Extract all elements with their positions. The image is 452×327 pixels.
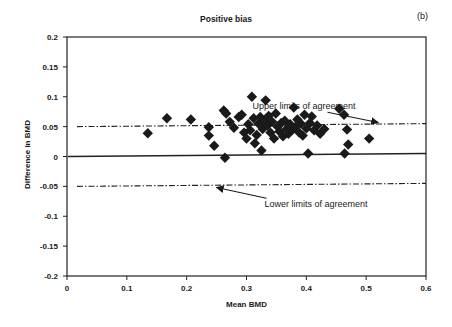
data-point xyxy=(220,152,230,162)
x-tick-label: 0.1 xyxy=(121,284,133,293)
scatter-plot: 0.20.150.10.050-0.05-0.1-0.15-0.2 00.10.… xyxy=(0,0,452,327)
x-tick-label: 0.2 xyxy=(181,284,193,293)
mean-difference-line xyxy=(68,154,426,157)
annotation-arrow xyxy=(217,188,267,199)
data-point xyxy=(339,148,349,158)
upper-limit-annotation: Upper limits of agreement xyxy=(252,101,356,111)
data-point xyxy=(250,138,260,148)
y-tick-label: 0.05 xyxy=(42,123,58,132)
lower-limit-annotation: Lower limits of agreement xyxy=(264,199,368,209)
y-tick-label: -0.15 xyxy=(40,242,59,251)
x-tick-label: 0.6 xyxy=(420,284,432,293)
x-tick-label: 0.3 xyxy=(241,284,253,293)
x-tick-label: 0.4 xyxy=(301,284,313,293)
data-point xyxy=(303,148,313,158)
y-tick-label: 0.15 xyxy=(42,63,58,72)
data-point xyxy=(209,141,219,151)
y-tick-label: 0.2 xyxy=(47,33,59,42)
x-tick-label: 0 xyxy=(65,284,70,293)
annotation-arrow xyxy=(327,112,378,122)
data-point xyxy=(162,113,172,123)
data-point xyxy=(204,130,214,140)
data-point xyxy=(343,139,353,149)
lower-limit-line xyxy=(77,183,426,186)
y-tick-label: 0 xyxy=(54,153,59,162)
data-point xyxy=(143,128,153,138)
y-tick-label: -0.2 xyxy=(44,272,58,281)
data-point xyxy=(364,133,374,143)
data-point xyxy=(342,124,352,134)
y-tick-label: -0.1 xyxy=(44,212,58,221)
y-axis-ticks: 0.20.150.10.050-0.05-0.1-0.15-0.2 xyxy=(40,33,67,281)
data-point xyxy=(186,114,196,124)
y-tick-label: -0.05 xyxy=(40,182,59,191)
y-tick-label: 0.1 xyxy=(47,93,59,102)
x-axis-ticks: 00.10.20.30.40.50.6 xyxy=(65,276,432,293)
x-tick-label: 0.5 xyxy=(361,284,373,293)
